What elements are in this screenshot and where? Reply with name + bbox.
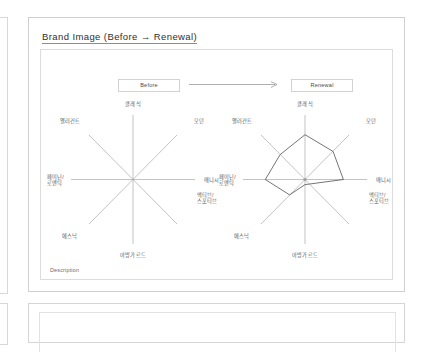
axis-label-avantgarde: 아방가르드 xyxy=(120,252,146,258)
content-area: Before Renewal 클래식 xyxy=(40,49,393,280)
axis-label-mannish: 매니시 xyxy=(376,176,391,182)
axis-label-modern: 모던 xyxy=(366,118,376,124)
next-slide-edge xyxy=(0,303,8,345)
radar-center-dot xyxy=(303,178,306,181)
axis-label-feminine: 페미닌/ 로맨틱 xyxy=(47,173,64,186)
axis-label-classic: 클래식 xyxy=(125,101,140,107)
previous-slide-edge xyxy=(0,17,8,294)
radar-chart-renewal: 클래식 모던 매니시 액티브/ 스포티브 아방가르드 에스닉 페미닌/ 로맨틱 … xyxy=(217,92,393,267)
axis-label-elegant: 엘러건트 xyxy=(60,118,80,124)
slide-frame: Brand Image (Before → Renewal) Before Re… xyxy=(28,17,405,292)
axis-label-avantgarde: 아방가르드 xyxy=(292,252,318,258)
axis-label-active-line1: 액티브/ xyxy=(369,192,386,198)
before-tag: Before xyxy=(118,79,180,92)
axis-label-active-line1: 액티브/ xyxy=(197,192,214,198)
radar-chart-before: 클래식 모던 매니시 액티브/ 스포티브 아방가르드 에스닉 페미닌/ 로맨틱 … xyxy=(45,92,221,267)
radar-polygon-renewal xyxy=(265,135,343,195)
axis-label-active: 액티브/ 스포티브 xyxy=(197,192,217,205)
axis-label-ethnic: 에스닉 xyxy=(62,233,77,239)
axis-label-active: 액티브/ 스포티브 xyxy=(369,192,389,205)
axis-label-active-line2: 스포티브 xyxy=(369,198,389,204)
page-title: Brand Image (Before → Renewal) xyxy=(42,31,197,44)
next-slide-content-area xyxy=(39,312,396,352)
axis-label-classic: 클래식 xyxy=(297,101,312,107)
description-label: Description xyxy=(50,267,79,273)
axis-label-active-line2: 스포티브 xyxy=(197,198,217,204)
axis-label-ethnic: 에스닉 xyxy=(234,233,249,239)
axis-label-feminine: 페미닌/ 로맨틱 xyxy=(219,173,236,186)
axis-label-feminine-line2: 로맨틱 xyxy=(47,180,62,186)
axis-label-modern: 모던 xyxy=(194,118,204,124)
next-slide-frame xyxy=(28,303,405,343)
renewal-tag: Renewal xyxy=(291,79,353,92)
axis-label-elegant: 엘러건트 xyxy=(232,118,252,124)
axis-label-feminine-line2: 로맨틱 xyxy=(219,180,234,186)
right-arrow-icon xyxy=(189,78,281,91)
